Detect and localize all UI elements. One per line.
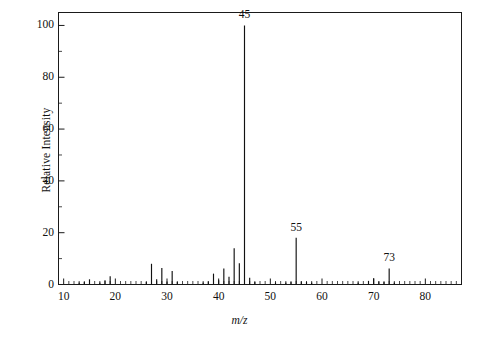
x-axis-tick-label: 70	[354, 291, 394, 303]
y-axis-tick-label: 100	[20, 19, 54, 31]
x-axis-tick-label: 40	[199, 291, 239, 303]
x-axis-title: m/z	[0, 314, 479, 326]
x-axis-tick-label: 20	[95, 291, 135, 303]
x-axis-tick-label: 50	[250, 291, 290, 303]
plot-frame	[58, 12, 462, 285]
peak-label-55: 55	[276, 222, 316, 234]
x-axis-tick-label: 60	[302, 291, 342, 303]
peak-label-73: 73	[369, 252, 409, 264]
x-axis-tick-label: 80	[405, 291, 445, 303]
y-axis-title-wrap: Relative Intensity	[14, 40, 34, 260]
y-axis-title: Relative Intensity	[40, 50, 52, 250]
mass-spectrum-figure: 020406080100 1020304050607080 455573 Rel…	[0, 0, 479, 341]
y-axis-tick-label: 0	[20, 279, 54, 291]
x-axis-tick-label: 30	[147, 291, 187, 303]
x-axis-tick-label: 10	[44, 291, 84, 303]
peak-label-45: 45	[225, 9, 265, 21]
